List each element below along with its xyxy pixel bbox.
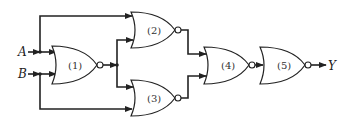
wire-gate3-out [181,76,206,98]
nor-gate-2: (2) [131,12,181,48]
input-b-label: B [17,67,27,81]
nor-gate-1: (1) [52,46,103,84]
wire-gate1-out [103,40,133,87]
gate-5-label: (5) [277,60,291,71]
nor-gate-3: (3) [131,80,181,116]
nor-gate-5: (5) [260,47,311,84]
wire-gate2-out [181,30,206,54]
gate-2-label: (2) [147,25,161,36]
output-y-label: Y [328,59,337,73]
nor-gate-4: (4) [204,47,255,84]
logic-circuit-diagram: A B (1) (2) (3) [0,0,356,128]
input-a-label: A [17,45,27,59]
gate-4-label: (4) [221,60,235,71]
gate-3-label: (3) [147,93,161,104]
gate-1-label: (1) [68,60,82,71]
